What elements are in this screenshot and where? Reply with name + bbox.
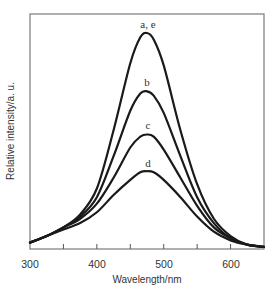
x-axis-label: Wavelength/nm [112, 274, 181, 285]
plot-frame [30, 14, 264, 249]
series-label-a-e: a, e [140, 18, 155, 30]
series-label-c: c [146, 119, 151, 131]
series-label-b: b [144, 76, 150, 88]
x-tick-label-500: 500 [155, 258, 173, 270]
curve-ae [30, 33, 264, 247]
x-tick-label-600: 600 [222, 258, 240, 270]
x-tick-label-400: 400 [88, 258, 106, 270]
spectra-curves [30, 33, 264, 247]
emission-spectra-chart: 300 400 500 600 Wavelength/nm Relative i… [0, 0, 274, 299]
x-axis-ticks [63, 244, 230, 249]
x-tick-label-300: 300 [21, 258, 39, 270]
y-axis-label: Relative intensity/a. u. [5, 82, 16, 180]
series-label-d: d [145, 157, 151, 169]
